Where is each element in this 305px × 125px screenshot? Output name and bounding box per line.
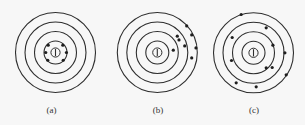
label-a: (a): [47, 105, 57, 115]
target-diagram: (a) (b) (c): [0, 0, 305, 125]
hit-mark: [190, 56, 193, 59]
hit-mark: [271, 66, 274, 69]
hit-mark: [265, 26, 268, 29]
hit-mark: [265, 66, 268, 69]
hit-mark: [271, 44, 274, 47]
hit-mark: [65, 51, 68, 54]
hit-mark: [231, 36, 234, 39]
hit-mark: [194, 46, 197, 49]
hit-mark: [255, 85, 258, 88]
hit-mark: [240, 13, 243, 16]
hit-mark: [61, 44, 64, 47]
hit-mark: [177, 38, 180, 41]
hit-mark: [172, 49, 175, 52]
hit-mark: [44, 51, 47, 54]
target-c: [214, 13, 294, 93]
hit-mark: [235, 81, 238, 84]
label-b: (b): [153, 105, 164, 115]
hit-mark: [285, 73, 288, 76]
target-b: [117, 13, 197, 93]
hit-mark: [62, 59, 65, 62]
hit-mark: [190, 33, 193, 36]
hit-mark: [176, 35, 179, 38]
hit-mark: [46, 59, 49, 62]
hit-mark: [283, 51, 286, 54]
target-a: [16, 13, 96, 93]
hit-mark: [185, 24, 188, 27]
hit-mark: [183, 44, 186, 47]
hit-mark: [47, 44, 50, 47]
hit-mark: [230, 59, 233, 62]
label-c: (c): [249, 105, 259, 115]
